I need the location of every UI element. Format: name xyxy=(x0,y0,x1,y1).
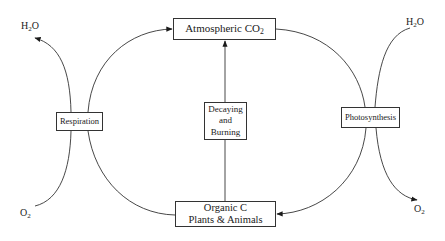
arrow-photosynthesis-to-organic xyxy=(277,128,366,214)
right-h2o-label: H2O xyxy=(406,16,424,27)
arrow-photosynthesis-to-o2 xyxy=(376,128,417,200)
left-h2o-label: H2O xyxy=(21,20,39,31)
line-o2-to-respiration xyxy=(35,131,71,206)
arrow-respiration-to-h2o xyxy=(35,38,71,112)
organic-c-node: Organic C Plants & Animals xyxy=(175,201,276,227)
atmospheric-co2-node: Atmospheric CO2 xyxy=(173,18,276,40)
right-o2-label: O2 xyxy=(414,203,425,214)
respiration-node: Respiration xyxy=(56,112,103,131)
line-h2o-to-photosynthesis xyxy=(375,28,410,107)
arrow-respiration-to-co2 xyxy=(88,29,172,112)
line-co2-to-photosynthesis xyxy=(276,29,365,107)
photosynthesis-node: Photosynthesis xyxy=(341,107,400,128)
line-organic-to-respiration xyxy=(88,131,175,215)
left-o2-label: O2 xyxy=(20,207,31,218)
decaying-burning-node: Decaying and Burning xyxy=(204,102,247,140)
